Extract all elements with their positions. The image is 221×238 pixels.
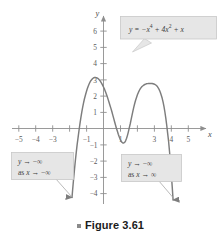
y-axis-label: y <box>95 9 100 18</box>
left-callout-line1: y → −∞ <box>17 157 42 166</box>
equation-part-prefix: y = −x <box>128 25 150 34</box>
square-bullet-icon <box>77 224 81 228</box>
left-callout-leader <box>56 179 72 197</box>
x-tick-label: −3 <box>49 135 57 144</box>
right-end-behavior-callout: y → −∞ as x → ∞ <box>122 155 182 182</box>
equation-callout: y = −x4 + 4x2 + x <box>121 17 217 40</box>
x-tick-label: −4 <box>32 135 40 144</box>
left-callout-as: as <box>18 168 26 177</box>
x-tick-label: 5 <box>186 135 190 144</box>
x-tick-label: −5 <box>15 135 23 144</box>
equation-part-suffix: + x <box>171 25 184 34</box>
figure-caption: Figure 3.61 <box>0 212 221 238</box>
plot-area: x y −5 −4 −3 −1 1 <box>0 0 221 212</box>
right-callout-line2: as x → ∞ <box>128 170 156 179</box>
y-tick-label: −1 <box>90 141 98 150</box>
left-end-behavior-callout: y → −∞ as x → −∞ <box>12 153 74 180</box>
y-tick-label: −4 <box>90 189 98 198</box>
equation-part-mid: + 4x <box>153 25 170 34</box>
right-callout-line1: y → −∞ <box>127 159 152 168</box>
left-callout-line2-rest: → −∞ <box>30 168 51 177</box>
y-tick-label: 5 <box>93 43 97 52</box>
right-callout-line2-rest: → ∞ <box>140 170 157 179</box>
y-tick-label: 4 <box>93 59 97 68</box>
x-tick-label: 4 <box>169 135 173 144</box>
y-tick-label: 6 <box>93 27 97 36</box>
equation-leader <box>133 39 152 53</box>
y-tick-label: 1 <box>93 108 97 117</box>
x-tick-label: 3 <box>153 135 157 144</box>
y-tick-labels: 6 5 4 3 2 1 −1 −2 −3 −4 <box>90 27 98 199</box>
figure-caption-text: Figure 3.61 <box>85 219 144 231</box>
y-tick-label: 2 <box>93 92 97 101</box>
left-callout-line1-rest: → −∞ <box>21 157 42 166</box>
left-callout-line2: as x → −∞ <box>18 168 51 177</box>
right-callout-line1-rest: → −∞ <box>131 159 152 168</box>
right-callout-as: as <box>128 170 136 179</box>
equation-callout-text: y = −x4 + 4x2 + x <box>128 23 184 33</box>
y-tick-label: −3 <box>90 173 98 182</box>
figure-container: x y −5 −4 −3 −1 1 <box>0 0 221 238</box>
graph-svg: x y −5 −4 −3 −1 1 <box>0 0 221 212</box>
right-callout-leader <box>159 181 174 198</box>
x-tick-labels: −5 −4 −3 −1 1 3 4 5 <box>15 135 191 144</box>
y-tick-label: −2 <box>90 157 98 166</box>
x-axis-label: x <box>207 130 212 139</box>
